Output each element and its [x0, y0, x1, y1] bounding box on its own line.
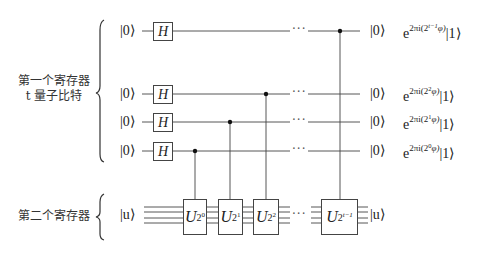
register-output-u: |u⟩: [370, 206, 385, 223]
qubit-output-2: |0⟩: [370, 113, 385, 130]
hadamard-gate-2: H: [153, 113, 173, 132]
u-base: U: [326, 208, 338, 226]
phase-ket: |1⟩: [446, 26, 461, 41]
phase-exp-sup: t−1: [428, 22, 437, 29]
hadamard-gate-1: H: [153, 85, 173, 104]
ellipsis-row-0: ···: [290, 22, 308, 36]
qubit-input-1: |0⟩: [120, 85, 135, 102]
ellipsis-register: ···: [290, 207, 308, 221]
phase-tail: φ): [438, 23, 446, 33]
phase-output-2: e2πi(21φ)|1⟩: [403, 113, 454, 133]
phase-ket: |1⟩: [440, 146, 455, 161]
phase-exp: 2πi(2: [409, 86, 428, 96]
qubit-output-3: |0⟩: [370, 142, 385, 159]
controlled-u-gate-1: U21: [218, 199, 243, 235]
phase-exp: 2πi(2: [409, 114, 428, 124]
phase-output-3: e2πi(20φ)|1⟩: [403, 142, 454, 162]
phase-tail: φ): [432, 143, 440, 153]
u-exp-sup: t−1: [343, 211, 353, 219]
controlled-u-gate-2: U22: [253, 199, 279, 235]
u-base: U: [220, 208, 232, 226]
u-exp-sup: 1: [237, 211, 241, 219]
qubit-output-0: |0⟩: [370, 22, 385, 39]
first-register-title: 第一个寄存器: [14, 74, 94, 89]
ellipsis-row-1: ···: [290, 85, 308, 99]
phase-tail: φ): [432, 86, 440, 96]
qubit-input-2: |0⟩: [120, 113, 135, 130]
hadamard-gate-0: H: [153, 22, 173, 41]
controlled-u-gate-t-minus-1: U2t−1: [321, 199, 358, 235]
u-base: U: [185, 208, 197, 226]
phase-exp: 2πi(2: [409, 143, 428, 153]
phase-tail: φ): [432, 114, 440, 124]
u-exp-sup: 2: [273, 211, 277, 219]
phase-exp: 2πi(2: [409, 23, 428, 33]
qubit-input-0: |0⟩: [120, 22, 135, 39]
control-dots: [193, 29, 342, 153]
qubit-output-1: |0⟩: [370, 85, 385, 102]
first-register-label: 第一个寄存器 t 量子比特: [14, 74, 94, 104]
qubit-count-text: t 量子比特: [26, 89, 83, 103]
qubit-input-3: |0⟩: [120, 142, 135, 159]
u-base: U: [256, 208, 268, 226]
control-lines: [195, 31, 340, 199]
second-register-label: 第二个寄存器: [14, 209, 94, 224]
ellipsis-row-2: ···: [290, 113, 308, 127]
register-input-u: |u⟩: [120, 206, 135, 223]
u-exp-sup: 0: [202, 211, 206, 219]
controlled-u-gate-0: U20: [183, 199, 207, 235]
first-register-qubit-count: t 量子比特: [14, 89, 94, 104]
phase-ket: |1⟩: [440, 117, 455, 132]
qubit-wires: [142, 31, 360, 151]
hadamard-gate-3: H: [153, 142, 173, 161]
second-register-brace: [96, 194, 104, 240]
first-register-brace: [96, 20, 104, 162]
phase-output-0: e2πi(2t−1φ)|1⟩: [403, 22, 461, 42]
ellipsis-row-3: ···: [290, 142, 308, 156]
phase-output-1: e2πi(22φ)|1⟩: [403, 85, 454, 105]
phase-ket: |1⟩: [440, 89, 455, 104]
